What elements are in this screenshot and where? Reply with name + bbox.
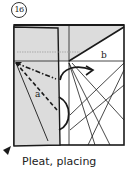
arrow-pointer-icon [3,146,11,155]
label-a: a [35,89,41,99]
origami-diagram: b a [0,0,127,171]
label-b: b [101,50,107,60]
step-caption: Pleat, placing [22,155,96,168]
